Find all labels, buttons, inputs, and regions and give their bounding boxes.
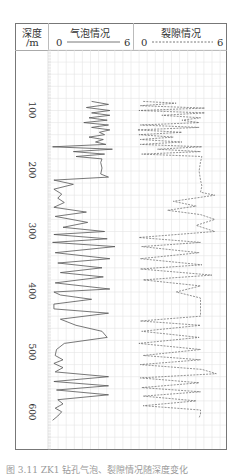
depth-tick-label: 400 (27, 282, 37, 299)
bubble-series-line (53, 101, 115, 420)
depth-tick-label: 200 (27, 161, 37, 178)
depth-tick-label: 500 (27, 343, 37, 360)
depth-tick-label: 600 (27, 403, 37, 420)
figure-caption: 图 3.11 ZK1 钻孔气泡、裂隙情况随深度变化 (6, 463, 188, 475)
grid (48, 50, 226, 449)
fracture-series-line (137, 101, 216, 417)
depth-tick-label: 100 (27, 101, 37, 118)
depth-tick-label: 300 (27, 222, 37, 239)
